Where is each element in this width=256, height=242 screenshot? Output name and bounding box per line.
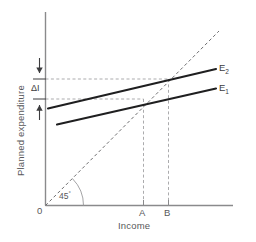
curve-label-e2: E2	[219, 63, 229, 75]
x-tick-label-a: A	[139, 208, 145, 218]
guide-lines-group	[46, 79, 169, 206]
angle-arc	[73, 179, 84, 206]
curve-e2-line	[48, 69, 216, 109]
curve-label-e1-subscript: 1	[225, 88, 229, 95]
x-tick-label-b: B	[164, 208, 170, 218]
y-axis-label: Planned expenditure	[16, 85, 26, 176]
x-axis-label: Income	[118, 221, 150, 231]
curve-label-e2-subscript: 2	[225, 68, 229, 75]
degree-symbol: °	[68, 190, 70, 196]
delta-income-label: ΔI	[31, 84, 40, 93]
expenditure-curves-group	[48, 69, 216, 125]
planned-expenditure-chart: Planned expenditure Income 0 45° A B ΔI …	[0, 0, 256, 242]
origin-label: 0	[37, 206, 42, 216]
curve-label-e1: E1	[219, 83, 229, 95]
axes-group	[46, 12, 234, 206]
x-axis-ticks-group	[144, 200, 169, 206]
curve-e1-line	[57, 89, 216, 125]
forty-five-degree-line	[46, 31, 220, 206]
angle-label: 45°	[59, 190, 71, 200]
